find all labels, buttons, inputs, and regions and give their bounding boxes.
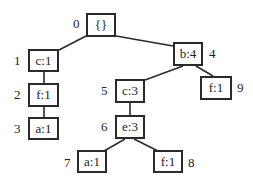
node-c1: c:1 (28, 49, 59, 72)
node-c3: c:3 (115, 79, 145, 103)
node-index-8: 8 (188, 156, 195, 169)
node-f1-c: f:1 (200, 76, 232, 100)
edge-4-9 (196, 66, 213, 76)
node-f1-a: f:1 (28, 83, 59, 107)
node-index-7: 7 (64, 156, 71, 169)
node-index-1: 1 (14, 54, 21, 67)
node-index-2: 2 (14, 88, 21, 101)
node-index-5: 5 (101, 84, 108, 97)
node-index-3: 3 (14, 122, 21, 135)
node-index-0: 0 (73, 17, 80, 30)
node-a1-a: a:1 (28, 117, 59, 140)
edge-6-7 (104, 139, 125, 151)
node-index-6: 6 (101, 120, 108, 133)
fp-tree-diagram: 0 {} 1 c:1 2 f:1 3 a:1 b:4 4 5 c:3 6 e:3… (0, 0, 253, 184)
edge-0-1 (59, 36, 86, 50)
node-a1-b: a:1 (77, 150, 107, 173)
edge-0-4 (116, 36, 173, 46)
node-b4: b:4 (173, 42, 203, 66)
node-index-4: 4 (209, 47, 216, 60)
node-f1-b: f:1 (153, 150, 183, 173)
node-root: {} (86, 13, 116, 37)
node-index-9: 9 (237, 81, 244, 94)
edge-4-5 (145, 66, 183, 80)
node-e3: e:3 (115, 115, 145, 139)
